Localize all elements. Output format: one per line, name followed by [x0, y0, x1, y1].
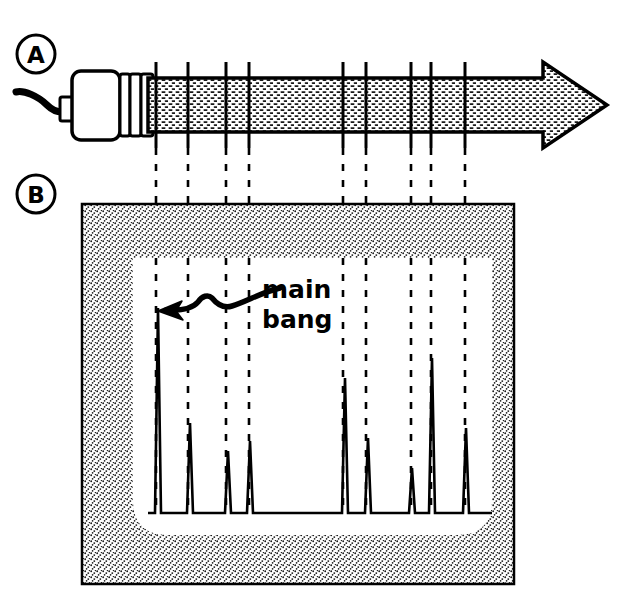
beam-stipple-fill [140, 55, 619, 155]
main-bang-label-line2: bang [262, 305, 332, 334]
main-bang-label-line1: main [262, 275, 331, 304]
panel-b-label: B [17, 175, 55, 213]
figure-canvas: A B [0, 0, 619, 595]
transducer-probe [16, 71, 153, 140]
panel-a-label: A [17, 35, 55, 73]
ultrasound-beam-arrow [140, 55, 619, 155]
panel-a-letter: A [27, 42, 45, 68]
panel-b-letter: B [27, 182, 45, 208]
probe-ring-2 [130, 74, 141, 136]
probe-body [72, 71, 120, 140]
probe-cable [16, 92, 62, 112]
display-housing [82, 204, 514, 584]
ultrasound-figure: A B [0, 0, 619, 595]
correlation-dashed-lines [156, 148, 465, 206]
